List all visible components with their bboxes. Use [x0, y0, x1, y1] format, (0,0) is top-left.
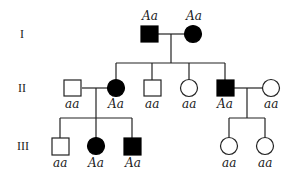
generation-I: Aa Aa: [141, 9, 202, 63]
genotype-label: Aa: [107, 97, 124, 111]
affected-male-III3: [124, 138, 141, 155]
genotype-label: Aa: [141, 9, 158, 23]
genotype-label: aa: [145, 97, 159, 111]
unaffected-male-II1: [64, 80, 81, 96]
unaffected-female-III5: [257, 138, 274, 155]
genotype-label: aa: [182, 97, 196, 111]
unaffected-female-III4: [221, 138, 238, 155]
genotype-label: aa: [65, 97, 79, 111]
genotype-label: aa: [222, 156, 236, 170]
genotype-label: Aa: [216, 97, 233, 111]
genotype-label: Aa: [87, 156, 104, 170]
genotype-label: aa: [264, 97, 278, 111]
affected-female-II2: [108, 80, 125, 97]
affected-male-I1: [141, 26, 158, 42]
genotype-label: aa: [53, 156, 67, 170]
genotype-label: aa: [258, 156, 272, 170]
pedigree-chart: I II III Aa Aa aa Aa aa aa Aa aa: [0, 0, 298, 181]
unaffected-male-II3: [144, 80, 161, 96]
generation-label-III: III: [17, 139, 29, 153]
generation-III: aa Aa Aa aa aa: [52, 118, 274, 170]
generation-label-II: II: [18, 81, 26, 95]
generation-II: aa Aa aa aa Aa aa: [64, 63, 280, 118]
generation-label-I: I: [20, 27, 24, 41]
affected-female-III2: [88, 138, 105, 155]
unaffected-female-II6: [263, 80, 280, 97]
affected-male-II5: [217, 80, 234, 96]
genotype-label: Aa: [185, 9, 202, 23]
genotype-label: Aa: [124, 156, 141, 170]
unaffected-male-III1: [52, 138, 69, 155]
affected-female-I2: [185, 26, 202, 43]
unaffected-female-II4: [181, 80, 198, 97]
